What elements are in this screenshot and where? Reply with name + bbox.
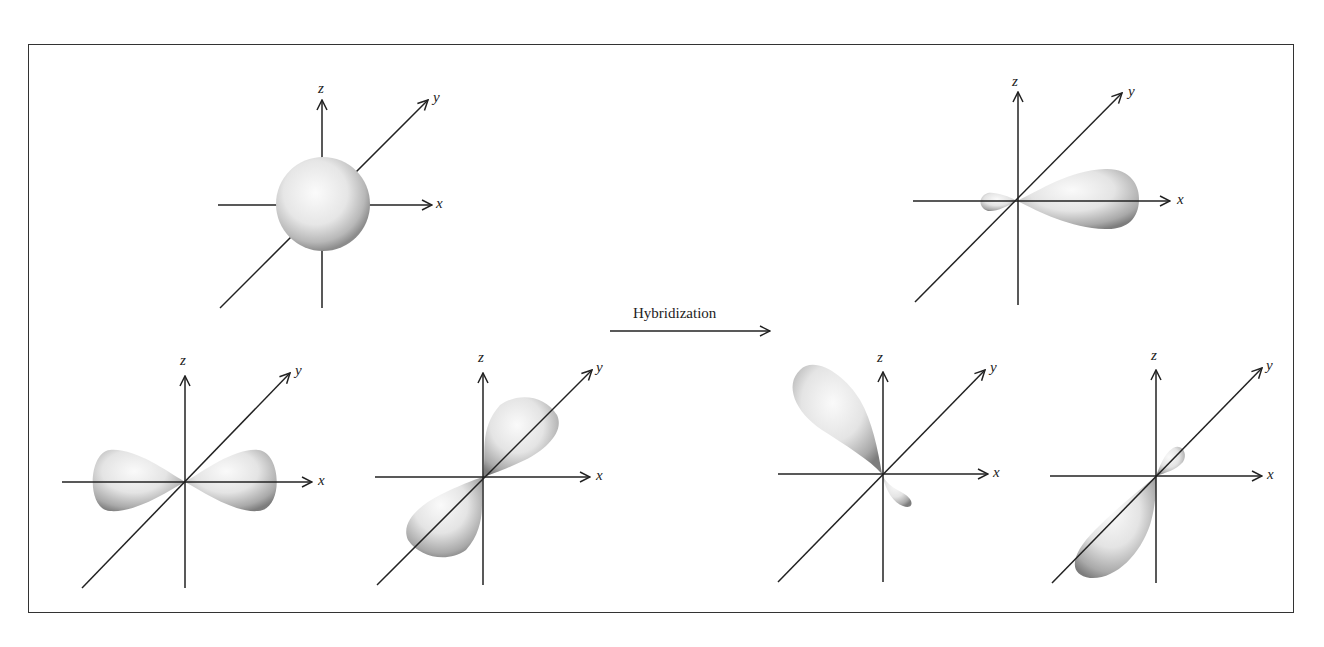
hybrid-3-panel: z x y bbox=[1050, 347, 1274, 583]
x-axis-label: x bbox=[435, 195, 443, 211]
z-axis-label: z bbox=[1011, 73, 1018, 89]
z-axis-label: z bbox=[179, 352, 186, 368]
z-axis-label: z bbox=[317, 80, 324, 96]
y-axis-label: y bbox=[594, 359, 603, 375]
hybrid-2-large-lobe bbox=[793, 365, 882, 474]
px-orbital-panel: z x y bbox=[62, 352, 325, 588]
x-axis-label: x bbox=[317, 472, 325, 488]
hybridization-label: Hybridization bbox=[633, 305, 717, 321]
x-axis-label: x bbox=[1266, 466, 1274, 482]
px-lobe-positive bbox=[185, 450, 277, 511]
orbital-hybridization-diagram: z x y z x y z x y Hybridization z x bbox=[0, 0, 1324, 647]
hybrid-2-small-lobe bbox=[882, 474, 912, 507]
hybrid-2-panel: z x y bbox=[778, 349, 1000, 582]
z-axis-label: z bbox=[876, 349, 883, 365]
y-axis-label: y bbox=[431, 89, 440, 105]
s-orbital-sphere bbox=[276, 157, 370, 251]
y-axis-label: y bbox=[293, 362, 302, 378]
hybridization-arrow: Hybridization bbox=[610, 305, 770, 331]
hybrid-3-large-lobe bbox=[1075, 476, 1156, 578]
hybrid-1-panel: z x y bbox=[913, 73, 1184, 305]
y-axis-label: y bbox=[1126, 83, 1135, 99]
z-axis-label: z bbox=[1150, 347, 1157, 363]
x-axis-label: x bbox=[992, 464, 1000, 480]
py-orbital-panel: z x y bbox=[375, 349, 603, 585]
py-lobe-positive bbox=[483, 397, 559, 477]
y-axis-label: y bbox=[988, 359, 997, 375]
s-orbital-panel: z x y bbox=[218, 80, 443, 308]
y-axis-label: y bbox=[1264, 357, 1273, 373]
z-axis-label: z bbox=[477, 349, 484, 365]
px-lobe-negative bbox=[93, 450, 185, 511]
hybrid-1-small-lobe bbox=[981, 193, 1018, 211]
x-axis-label: x bbox=[595, 467, 603, 483]
hybrid-1-large-lobe bbox=[1017, 169, 1139, 229]
x-axis-label: x bbox=[1176, 191, 1184, 207]
